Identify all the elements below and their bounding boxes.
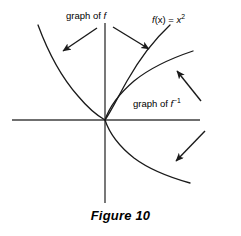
function-graph-svg <box>0 0 241 236</box>
curve-inverse-upper-branch <box>105 51 193 120</box>
formula-exponent: 2 <box>181 13 185 20</box>
arrow-to-graph-of-f-right-icon <box>113 27 149 49</box>
axes-group <box>12 23 200 203</box>
label-graph-of-f-inverse-exponent: −1 <box>173 97 181 104</box>
label-graph-of-f-inverse-prefix: graph of <box>133 98 171 109</box>
annotation-arrows-group <box>63 27 205 161</box>
figure-caption: Figure 10 <box>0 208 241 223</box>
figure-container: graph of f f(x) = x2 graph of f−1 Figure… <box>0 0 241 236</box>
arrow-to-f-inverse-lower-icon <box>176 131 205 161</box>
label-graph-of-f-inverse: graph of f−1 <box>133 98 181 109</box>
label-graph-of-f-prefix: graph of <box>66 10 104 21</box>
label-graph-of-f: graph of f <box>66 10 106 21</box>
label-graph-of-f-function: f <box>104 10 107 21</box>
formula-argument: (x) = <box>155 14 177 25</box>
label-function-formula: f(x) = x2 <box>152 14 185 25</box>
arrow-to-graph-of-f-left-icon <box>63 28 97 51</box>
curve-inverse-lower-branch <box>105 120 190 183</box>
